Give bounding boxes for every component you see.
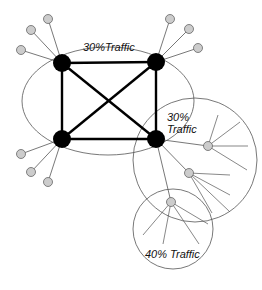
edge-node	[44, 178, 53, 187]
mid-region-boundary	[133, 98, 257, 222]
edge-node	[27, 26, 36, 35]
core-node-top-right	[147, 53, 165, 71]
edge-node	[166, 15, 175, 24]
mid-region-label-line1: 30%	[167, 111, 189, 123]
core-node-top-left	[53, 54, 71, 72]
network-diagram: 30%Traffic 30% Traffic 40% Traffic	[0, 0, 262, 290]
core-region-label: 30%Traffic	[83, 41, 135, 53]
core-node-bottom-right	[147, 130, 165, 148]
core-links	[62, 62, 156, 139]
edge-node	[185, 169, 194, 178]
edge-node	[167, 198, 176, 207]
edge-node	[185, 25, 194, 34]
edge-node	[194, 44, 203, 53]
core-node-bottom-left	[53, 130, 71, 148]
mid-region-label-line2: Traffic	[167, 123, 197, 135]
edge-node	[17, 46, 26, 55]
edge-node	[44, 15, 53, 24]
edge-node	[204, 142, 213, 151]
outer-region-label: 40% Traffic	[145, 248, 200, 260]
edge-node	[27, 168, 36, 177]
edge-node	[17, 150, 26, 159]
